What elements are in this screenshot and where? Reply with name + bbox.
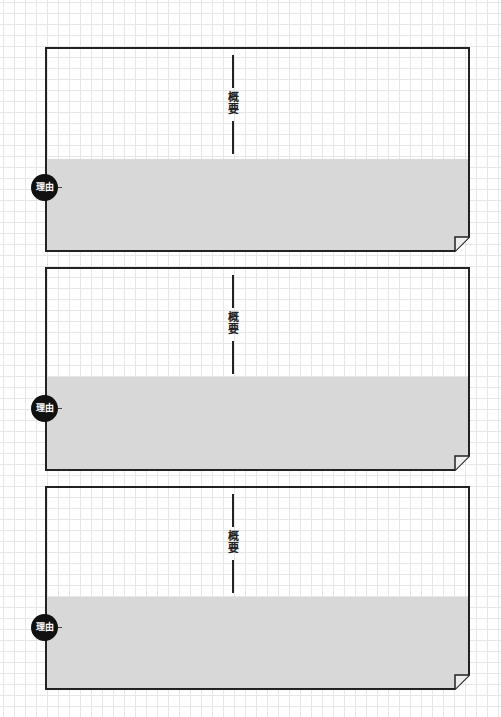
- reason-area: [46, 159, 469, 251]
- card-3: 概要 理由: [45, 486, 470, 690]
- card-frame: [45, 486, 470, 690]
- reason-area: [46, 377, 469, 470]
- badge-tick: [58, 187, 62, 188]
- card-2: 概要 理由: [45, 267, 470, 471]
- reason-badge: 理由: [31, 614, 58, 641]
- card-frame: [45, 267, 470, 471]
- folded-corner-icon: [455, 237, 469, 251]
- summary-divider-bottom: [232, 121, 234, 154]
- summary-label: 概要: [227, 91, 239, 115]
- folded-corner-icon: [455, 456, 469, 470]
- summary-divider-top: [232, 55, 234, 88]
- summary-divider-top: [232, 275, 234, 308]
- badge-tick: [58, 627, 62, 628]
- card-frame: [45, 47, 470, 252]
- reason-badge: 理由: [31, 174, 58, 201]
- badge-tick: [58, 408, 62, 409]
- reason-area: [46, 597, 469, 689]
- summary-divider-bottom: [232, 341, 234, 374]
- summary-divider-bottom: [232, 560, 234, 593]
- summary-label: 概要: [227, 311, 239, 335]
- summary-label: 概要: [227, 530, 239, 554]
- reason-badge: 理由: [31, 395, 58, 422]
- card-1: 概要 理由: [45, 47, 470, 252]
- summary-divider-top: [232, 494, 234, 527]
